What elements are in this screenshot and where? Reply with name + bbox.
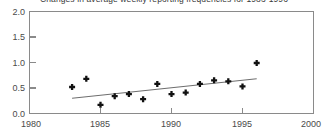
data-point-group	[69, 60, 260, 108]
data-point	[254, 60, 260, 66]
data-point	[69, 84, 75, 90]
data-point	[98, 102, 104, 108]
data-point	[225, 78, 231, 84]
x-tick-label-1985: 1985	[90, 119, 110, 129]
chart-figure: Changes in average weekly reporting freq…	[0, 0, 328, 134]
data-point	[140, 96, 146, 102]
y-tick-label-3: 1.5	[12, 32, 25, 42]
data-point	[211, 77, 217, 83]
y-tick-label-2: 1.0	[12, 58, 25, 68]
data-point	[83, 76, 89, 82]
y-tick-label-0: 0.0	[12, 109, 25, 119]
x-tick-label-1995: 1995	[232, 119, 252, 129]
data-point	[154, 81, 160, 87]
data-point	[240, 83, 246, 89]
plot-area: 0.0 0.5 1.0 1.5 2.0 1980 1985 1990 1995 …	[0, 0, 328, 134]
x-tick-label-1980: 1980	[21, 119, 41, 129]
y-tick-label-4: 2.0	[12, 7, 25, 17]
data-point	[197, 81, 203, 87]
data-point	[183, 90, 189, 96]
y-tick-label-1: 0.5	[12, 83, 25, 93]
data-point	[169, 91, 175, 97]
x-tick-label-2000: 2000	[301, 119, 321, 129]
x-tick-label-1990: 1990	[161, 119, 181, 129]
